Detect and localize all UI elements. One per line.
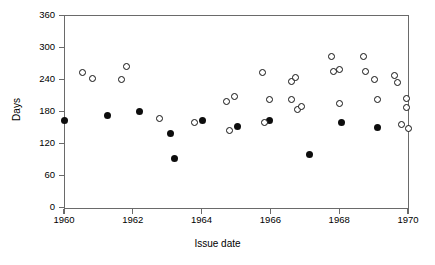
- x-tick-mark: [270, 209, 271, 214]
- data-point-open: [403, 104, 410, 111]
- y-tick-mark: [59, 143, 64, 144]
- y-tick-mark: [59, 47, 64, 48]
- y-tick-label: 360: [15, 10, 55, 20]
- data-point-open: [391, 72, 398, 79]
- data-point-filled: [374, 124, 381, 131]
- x-axis-title: Issue date: [0, 238, 435, 249]
- data-point-open: [405, 125, 412, 132]
- data-point-filled: [61, 117, 68, 124]
- y-axis-line: [64, 15, 65, 209]
- y-tick-mark: [59, 111, 64, 112]
- scatter-chart-figure: 060120180240300360 196019621964196619681…: [0, 0, 435, 265]
- x-tick-mark: [407, 209, 408, 214]
- data-point-open: [259, 69, 266, 76]
- data-point-open: [223, 98, 230, 105]
- data-point-open: [403, 95, 410, 102]
- y-tick-mark: [59, 79, 64, 80]
- data-point-open: [298, 103, 305, 110]
- data-point-filled: [104, 112, 111, 119]
- y-tick-label: 300: [15, 42, 55, 52]
- x-tick-mark: [201, 209, 202, 214]
- x-tick-label: 1964: [182, 215, 222, 225]
- data-point-open: [336, 100, 343, 107]
- data-point-open: [118, 76, 125, 83]
- data-point-filled: [306, 151, 313, 158]
- plot-right-border: [408, 15, 409, 209]
- x-tick-label: 1970: [388, 215, 428, 225]
- data-point-open: [336, 66, 343, 73]
- data-point-open: [362, 68, 369, 75]
- y-tick-label: 0: [15, 202, 55, 212]
- y-tick-mark: [59, 15, 64, 16]
- data-point-open: [398, 121, 405, 128]
- data-point-open: [226, 127, 233, 134]
- x-tick-label: 1962: [113, 215, 153, 225]
- data-point-open: [191, 119, 198, 126]
- data-point-open: [266, 96, 273, 103]
- x-tick-mark: [132, 209, 133, 214]
- data-point-filled: [338, 119, 345, 126]
- data-point-open: [89, 75, 96, 82]
- data-point-open: [374, 96, 381, 103]
- x-tick-label: 1968: [319, 215, 359, 225]
- x-tick-mark: [339, 209, 340, 214]
- x-tick-label: 1966: [250, 215, 290, 225]
- y-axis-title: Days: [11, 80, 22, 140]
- y-tick-mark: [59, 175, 64, 176]
- x-axis-line: [64, 208, 409, 209]
- data-point-open: [371, 76, 378, 83]
- data-point-filled: [136, 108, 143, 115]
- x-tick-label: 1960: [44, 215, 84, 225]
- data-point-open: [292, 74, 299, 81]
- data-point-filled: [234, 123, 241, 130]
- data-point-open: [360, 53, 367, 60]
- data-point-open: [79, 69, 86, 76]
- x-tick-mark: [63, 209, 64, 214]
- data-point-open: [288, 96, 295, 103]
- data-point-open: [123, 63, 130, 70]
- y-tick-label: 120: [15, 138, 55, 148]
- data-point-filled: [171, 155, 178, 162]
- data-point-open: [394, 79, 401, 86]
- plot-top-border: [64, 15, 409, 16]
- data-point-open: [328, 53, 335, 60]
- y-tick-label: 60: [15, 170, 55, 180]
- data-point-open: [231, 93, 238, 100]
- data-point-filled: [199, 117, 206, 124]
- data-point-open: [156, 115, 163, 122]
- data-point-filled: [167, 130, 174, 137]
- data-point-open: [261, 119, 268, 126]
